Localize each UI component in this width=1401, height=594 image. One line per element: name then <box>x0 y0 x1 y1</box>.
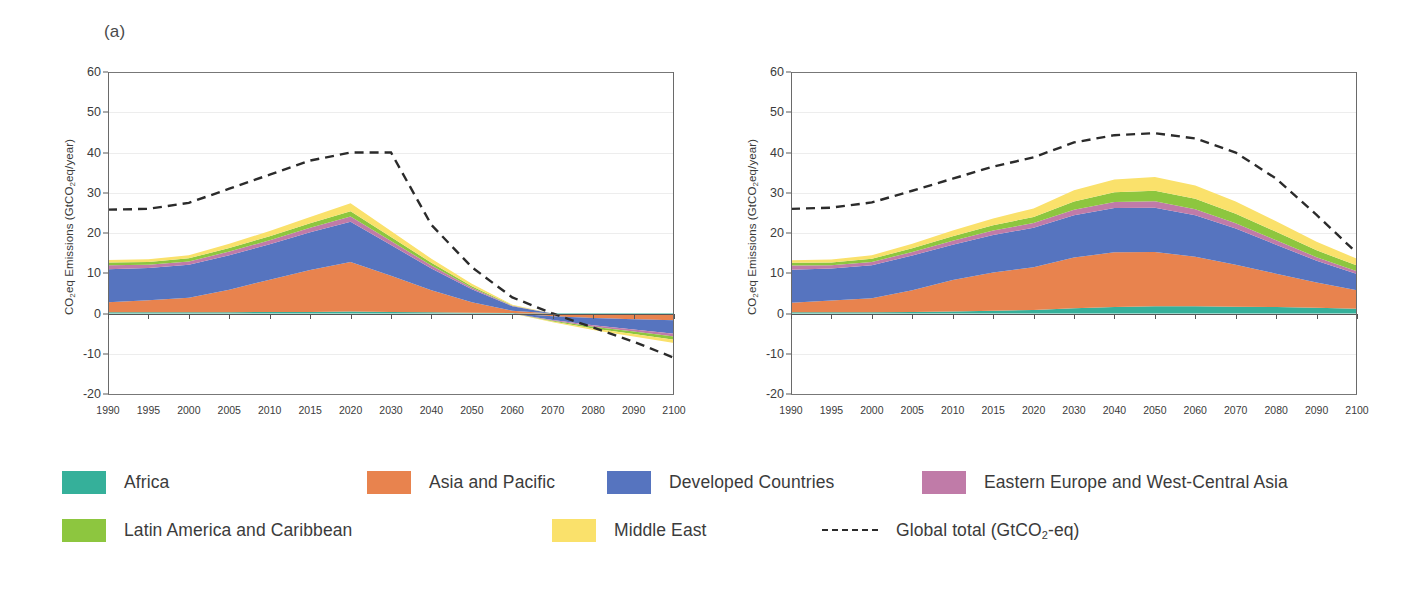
x-tick-label: 2000 <box>860 404 883 416</box>
series-layer <box>791 72 1357 394</box>
x-tick-label: 2090 <box>622 404 645 416</box>
x-tick-mark <box>1357 314 1358 319</box>
gridline <box>791 394 1357 395</box>
dashed-line-icon <box>822 529 878 531</box>
legend-label: Global total (GtCO2-eq) <box>896 520 1080 541</box>
chart-legend: AfricaAsia and PacificDeveloped Countrie… <box>62 458 1362 554</box>
x-tick-label: 2080 <box>1264 404 1287 416</box>
x-tick-label: 2040 <box>420 404 443 416</box>
x-tick-mark <box>872 314 873 319</box>
x-tick-label: 2060 <box>501 404 524 416</box>
gridline <box>108 394 674 395</box>
legend-label: Africa <box>124 472 169 493</box>
x-tick-mark <box>953 314 954 319</box>
x-tick-mark <box>1114 314 1115 319</box>
x-tick-label: 2005 <box>901 404 924 416</box>
x-tick-label: 2100 <box>1345 404 1368 416</box>
x-tick-mark <box>791 314 792 319</box>
legend-label: Developed Countries <box>669 472 834 493</box>
legend-swatch-icon <box>607 471 651 494</box>
y-axis-label-a: CO2eq Emissions (GtCO2eq/year) <box>60 72 78 382</box>
x-tick-mark <box>993 314 994 319</box>
x-tick-mark <box>310 314 311 319</box>
legend-item-asia-pacific[interactable]: Asia and Pacific <box>367 471 555 494</box>
x-tick-label: 2015 <box>298 404 321 416</box>
x-tick-mark <box>391 314 392 319</box>
x-tick-label: 2005 <box>218 404 241 416</box>
x-tick-label: 1995 <box>820 404 843 416</box>
x-tick-mark <box>472 314 473 319</box>
x-axis-ticks-b: 1990199520002005201020152020203020402050… <box>791 404 1357 422</box>
x-tick-label: 2030 <box>379 404 402 416</box>
x-tick-label: 2100 <box>662 404 685 416</box>
x-tick-mark <box>148 314 149 319</box>
x-tick-label: 1995 <box>137 404 160 416</box>
x-tick-mark <box>1034 314 1035 319</box>
legend-swatch-icon <box>922 471 966 494</box>
x-tick-mark <box>1195 314 1196 319</box>
right-axis-line <box>1356 72 1357 394</box>
y-axis-label-b: CO2eq Emissions (GtCO2eq/year) <box>743 72 761 382</box>
legend-item-middle-east[interactable]: Middle East <box>552 519 707 542</box>
x-tick-label: 2070 <box>541 404 564 416</box>
x-tick-mark <box>831 314 832 319</box>
chart-panel-b: CO2eq Emissions (GtCO2eq/year) 605040302… <box>745 72 1365 422</box>
x-tick-label: 2090 <box>1305 404 1328 416</box>
legend-item-global-total[interactable]: Global total (GtCO2-eq) <box>822 520 1080 541</box>
legend-row: Latin America and CaribbeanMiddle EastGl… <box>62 506 1362 554</box>
x-tick-mark <box>108 314 109 319</box>
x-tick-mark <box>431 314 432 319</box>
x-tick-mark <box>512 314 513 319</box>
x-tick-mark <box>912 314 913 319</box>
legend-label: Eastern Europe and West-Central Asia <box>984 472 1288 493</box>
x-tick-mark <box>1236 314 1237 319</box>
x-tick-label: 2070 <box>1224 404 1247 416</box>
x-tick-label: 2040 <box>1103 404 1126 416</box>
legend-label: Latin America and Caribbean <box>124 520 352 541</box>
x-tick-label: 1990 <box>779 404 802 416</box>
chart-panel-a: CO2eq Emissions (GtCO2eq/year) 605040302… <box>62 72 682 422</box>
x-tick-label: 2020 <box>339 404 362 416</box>
y-axis-line <box>108 72 109 394</box>
legend-swatch-icon <box>367 471 411 494</box>
x-tick-mark <box>1155 314 1156 319</box>
x-tick-label: 2030 <box>1062 404 1085 416</box>
x-tick-mark <box>593 314 594 319</box>
x-tick-mark <box>351 314 352 319</box>
legend-swatch-icon <box>62 471 106 494</box>
x-tick-label: 2080 <box>581 404 604 416</box>
x-axis-ticks-a: 1990199520002005201020152020203020402050… <box>108 404 674 422</box>
x-tick-label: 2020 <box>1022 404 1045 416</box>
x-tick-mark <box>634 314 635 319</box>
legend-swatch-icon <box>552 519 596 542</box>
legend-label: Middle East <box>614 520 707 541</box>
legend-label: Asia and Pacific <box>429 472 555 493</box>
x-tick-label: 2000 <box>177 404 200 416</box>
right-axis-line <box>673 72 674 394</box>
x-tick-mark <box>553 314 554 319</box>
legend-item-latin-america[interactable]: Latin America and Caribbean <box>62 519 352 542</box>
panel-label: (a) <box>104 22 125 42</box>
x-tick-mark <box>229 314 230 319</box>
x-tick-label: 2010 <box>941 404 964 416</box>
x-tick-mark <box>1276 314 1277 319</box>
legend-item-eastern-europe[interactable]: Eastern Europe and West-Central Asia <box>922 471 1288 494</box>
plot-area-a: 6050403020100-10-20 <box>108 72 674 394</box>
x-tick-label: 2050 <box>460 404 483 416</box>
legend-row: AfricaAsia and PacificDeveloped Countrie… <box>62 458 1362 506</box>
x-tick-label: 2010 <box>258 404 281 416</box>
x-tick-mark <box>189 314 190 319</box>
series-layer <box>108 72 674 394</box>
legend-swatch-icon <box>62 519 106 542</box>
x-tick-label: 1990 <box>96 404 119 416</box>
x-tick-mark <box>674 314 675 319</box>
legend-item-africa[interactable]: Africa <box>62 471 169 494</box>
legend-item-developed[interactable]: Developed Countries <box>607 471 834 494</box>
x-tick-label: 2060 <box>1184 404 1207 416</box>
x-tick-label: 2015 <box>981 404 1004 416</box>
y-axis-line <box>791 72 792 394</box>
x-tick-mark <box>1317 314 1318 319</box>
x-tick-label: 2050 <box>1143 404 1166 416</box>
x-tick-mark <box>270 314 271 319</box>
plot-area-b: 6050403020100-10-20 <box>791 72 1357 394</box>
